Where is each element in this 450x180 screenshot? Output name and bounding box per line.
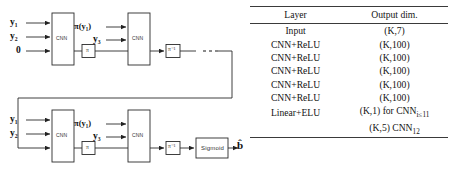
table-row: CNN+ReLU (K,100) [250,91,448,104]
figure-container: y₁ y₂ 0 CNN π π(y₁) y₃ CNN π⁻¹ y₁ y₂ CNN… [0,0,450,180]
top-cnn-block-1-label: CNN [56,36,67,41]
bottom-cnn-block-2-label: CNN [132,133,143,138]
top-mid-input-label-y3: y₃ [93,35,101,45]
table-row: CNN+ReLU (K,100) [250,64,448,77]
cell-layer: Linear+ELU [250,104,341,120]
layer-spec-table: Layer Output dim. Input (K,7) CNN+ReLU (… [250,6,448,138]
cell-dim: (K,1) for CNNi≤11 [341,104,448,120]
cell-dim: (K,7) [341,24,448,38]
bottom-mid-input-label-pi-y1: π(y₁) [74,119,91,128]
sigmoid-block-label: Sigmoid [201,145,224,151]
diagram-wires [0,0,245,180]
cell-dim: (K,100) [341,78,448,91]
cell-layer: Input [250,24,341,38]
architecture-diagram: y₁ y₂ 0 CNN π π(y₁) y₃ CNN π⁻¹ y₁ y₂ CNN… [0,0,245,180]
cell-dim: (K,100) [341,51,448,64]
top-input-label-y2: y₂ [10,32,18,42]
table-header-output-dim: Output dim. [341,7,448,24]
output-label-b-hat: b̂ [237,140,243,151]
cell-dim-text: (K,1) for CNN [360,105,417,116]
cell-dim: (K,5) CNN12 [341,121,448,138]
bottom-cnn-block-1-label: CNN [56,133,67,138]
cell-dim: (K,100) [341,37,448,50]
top-mid-input-label-pi-y1: π(y₁) [74,22,91,31]
bottom-input-label-y1: y₁ [10,115,18,125]
cell-layer: CNN+ReLU [250,91,341,104]
cell-dim-subscript: i≤11 [416,111,429,119]
bottom-mid-input-label-y3: y₃ [93,132,101,142]
top-deinterleaver-label: π⁻¹ [168,47,175,53]
cell-layer-empty [250,121,341,138]
cell-dim: (K,100) [341,64,448,77]
cell-dim-subscript: 12 [413,128,420,136]
cell-layer: CNN+ReLU [250,37,341,50]
bottom-input-label-y2: y₂ [10,129,18,139]
cell-layer: CNN+ReLU [250,64,341,77]
cell-layer: CNN+ReLU [250,78,341,91]
table-row: CNN+ReLU (K,100) [250,37,448,50]
layer-spec-table-wrapper: Layer Output dim. Input (K,7) CNN+ReLU (… [250,6,448,172]
cell-dim-text: (K,5) CNN [369,122,412,133]
cell-dim: (K,100) [341,91,448,104]
top-interleaver-label: π [86,48,89,54]
cell-layer: CNN+ReLU [250,51,341,64]
top-input-label-zero: 0 [16,46,21,56]
bottom-interleaver-label: π [86,145,89,151]
table-row: CNN+ReLU (K,100) [250,51,448,64]
top-input-label-y1: y₁ [10,18,18,28]
table-row: Linear+ELU (K,1) for CNNi≤11 [250,104,448,120]
table-header-layer: Layer [250,7,341,24]
bottom-deinterleaver-label: π⁻¹ [168,144,175,150]
table-row-continuation: (K,5) CNN12 [250,121,448,138]
table-row: Input (K,7) [250,24,448,38]
table-row: CNN+ReLU (K,100) [250,78,448,91]
table-header-row: Layer Output dim. [250,7,448,24]
top-cnn-block-2-label: CNN [132,36,143,41]
